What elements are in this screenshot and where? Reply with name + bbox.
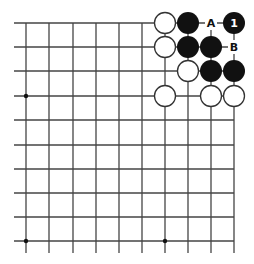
black-stone [177, 12, 199, 34]
white-stone [155, 13, 176, 34]
point-label-a: A [207, 17, 216, 30]
star-point [24, 239, 28, 243]
stone-move-number: 1 [230, 17, 238, 30]
white-stone [155, 37, 176, 58]
board-grid [14, 23, 234, 253]
white-stone [155, 86, 176, 107]
point-label-b: B [230, 41, 238, 54]
black-stone [200, 36, 222, 58]
white-stone [201, 86, 222, 107]
black-stone: 1 [223, 12, 245, 34]
black-stone [223, 60, 245, 82]
black-stone [200, 60, 222, 82]
stones: 1 [155, 12, 246, 107]
go-board-diagram: AB 1 [0, 0, 254, 264]
white-stone [224, 86, 245, 107]
star-point [24, 94, 28, 98]
black-stone [177, 36, 199, 58]
white-stone [178, 61, 199, 82]
star-point [163, 239, 167, 243]
